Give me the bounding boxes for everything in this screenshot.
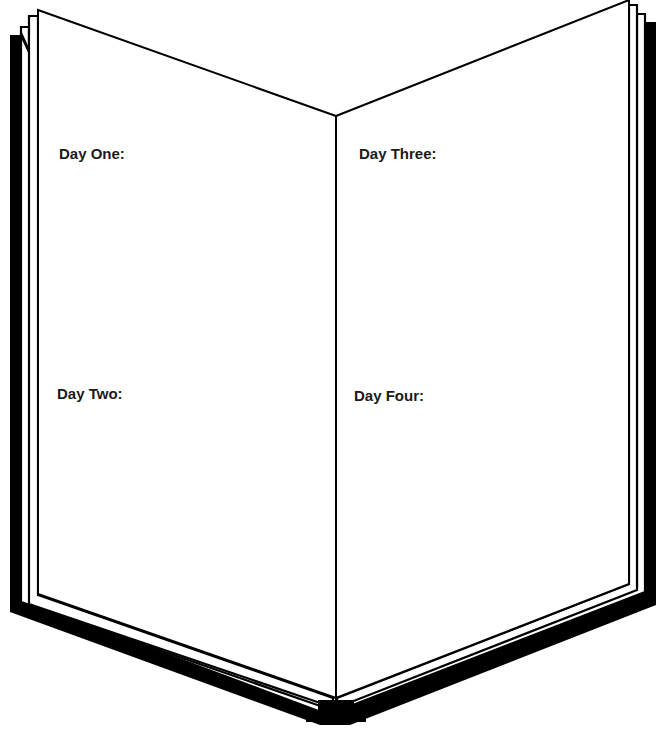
day-four-label: Day Four: <box>354 388 424 403</box>
left-page <box>38 10 336 698</box>
day-three-label: Day Three: <box>359 146 437 161</box>
right-page <box>336 0 629 698</box>
day-two-label: Day Two: <box>57 386 123 401</box>
day-one-label: Day One: <box>59 146 125 161</box>
front-pages <box>38 0 629 698</box>
open-book-illustration <box>0 0 666 737</box>
